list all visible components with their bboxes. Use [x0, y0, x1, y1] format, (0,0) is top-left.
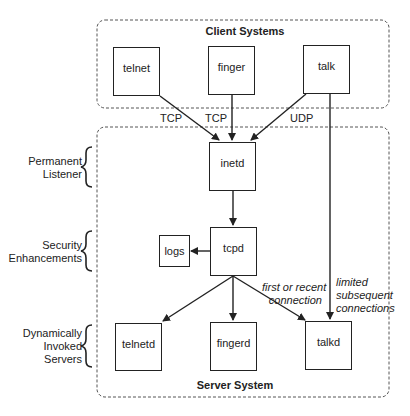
node-talkd: talkd — [305, 321, 352, 370]
node-tcpd: tcpd — [210, 227, 257, 276]
label-limited-line1: limited — [336, 276, 395, 289]
node-telnetd: telnetd — [115, 323, 162, 371]
side-line: Permanent — [0, 155, 82, 168]
edge-tcpd-telnetd — [163, 276, 233, 321]
label-first-line1: first or recent — [262, 281, 322, 294]
label-limited-line3: connections — [336, 302, 395, 315]
node-fingerd: fingerd — [210, 322, 257, 371]
label-first-connection: first or recent connection — [262, 281, 322, 307]
node-inetd: inetd — [209, 142, 256, 191]
side-label-permanent-listener: Permanent Listener — [0, 155, 82, 181]
side-line: Listener — [0, 168, 82, 181]
brace-dynamic-servers — [81, 325, 92, 367]
side-line: Security — [0, 239, 82, 252]
side-line: Dynamically — [0, 327, 82, 340]
side-line: Enhancements — [0, 252, 82, 265]
brace-permanent-listener — [81, 147, 92, 187]
node-telnet: telnet — [113, 47, 160, 96]
brace-security-enhancements — [81, 231, 92, 271]
label-finger-tcp: TCP — [205, 112, 227, 125]
label-first-line2: connection — [262, 294, 322, 307]
node-talk: talk — [303, 45, 350, 94]
node-finger: finger — [208, 46, 255, 95]
side-line: Invoked — [0, 340, 82, 353]
node-logs: logs — [159, 235, 190, 267]
label-limited-connections: limited subsequent connections — [336, 276, 395, 315]
server-system-title: Server System — [170, 379, 300, 391]
label-telnet-tcp: TCP — [160, 112, 182, 125]
side-label-dynamic-servers: Dynamically Invoked Servers — [0, 327, 82, 366]
client-systems-title: Client Systems — [180, 25, 310, 37]
side-label-security-enhancements: Security Enhancements — [0, 239, 82, 265]
side-line: Servers — [0, 353, 82, 366]
label-limited-line2: subsequent — [336, 289, 395, 302]
label-talk-udp: UDP — [290, 112, 313, 125]
